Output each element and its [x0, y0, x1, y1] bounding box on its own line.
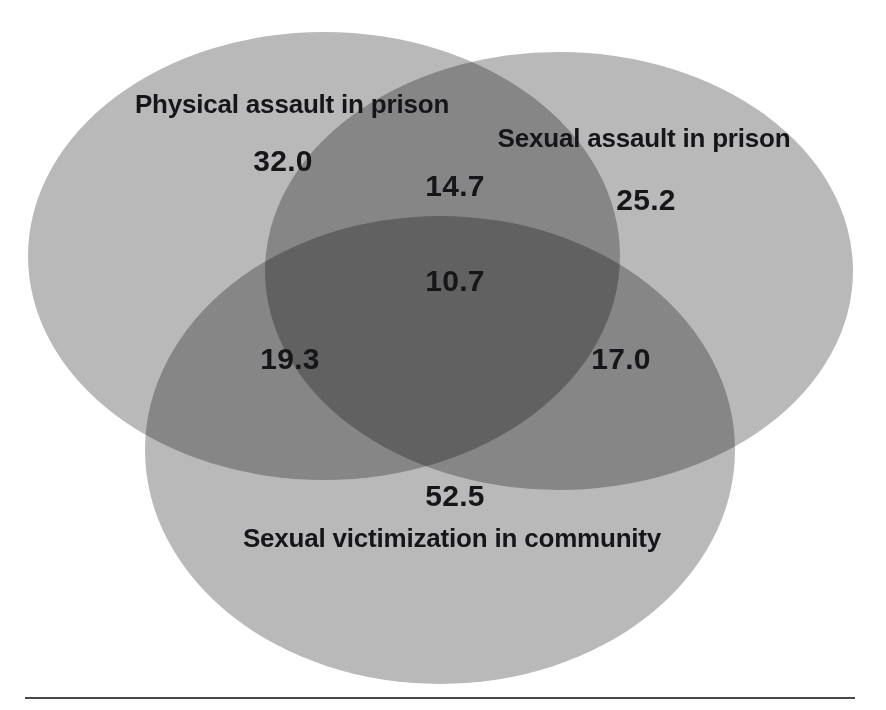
venn-diagram-figure: Physical assault in prison Sexual assaul… — [0, 0, 886, 710]
venn-circles-svg — [0, 0, 886, 710]
set-ellipse-sexual-victimization-community — [145, 216, 735, 684]
bottom-horizontal-rule — [25, 697, 855, 699]
